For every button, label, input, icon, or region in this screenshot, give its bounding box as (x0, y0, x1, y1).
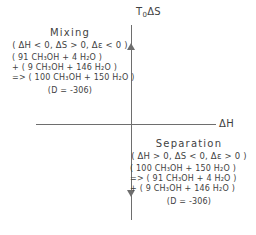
mixing-note: (D = -306) (8, 86, 132, 95)
mixing-equation-line-3: => ( 100 CH₃OH + 150 H₂O ) (8, 73, 132, 82)
mixing-equation-line-2: + ( 9 CH₃OH + 146 H₂O ) (8, 63, 132, 72)
horizontal-axis-line (36, 124, 216, 125)
separation-conditions: ( ΔH > 0, ΔS < 0, Δε > 0 ) (124, 151, 254, 161)
mixing-equation-line-1: ( 91 CH₃OH + 4 H₂O ) (8, 53, 132, 62)
vertical-axis-label-tail: ΔS (147, 6, 161, 17)
vertical-axis-label: T0ΔS (136, 6, 161, 19)
separation-equation-line-2: => ( 91 CH₃OH + 4 H₂O ) (124, 174, 254, 183)
figure-canvas: T0ΔS ΔH Mixing ( ΔH < 0, ΔS > 0, Δε < 0 … (0, 0, 256, 235)
separation-title: Separation (124, 138, 254, 149)
separation-equation-line-3: + ( 9 CH₃OH + 146 H₂O ) (124, 184, 254, 193)
annotation-separation: Separation ( ΔH > 0, ΔS < 0, Δε > 0 ) ( … (124, 138, 254, 206)
separation-note: (D = -306) (124, 197, 254, 206)
mixing-conditions: ( ΔH < 0, ΔS > 0, Δε < 0 ) (8, 40, 132, 50)
annotation-mixing: Mixing ( ΔH < 0, ΔS > 0, Δε < 0 ) ( 91 C… (8, 27, 132, 95)
mixing-title: Mixing (8, 27, 132, 38)
horizontal-axis-label: ΔH (219, 118, 234, 129)
separation-equation-line-1: ( 100 CH₃OH + 150 H₂O ) (124, 164, 254, 173)
